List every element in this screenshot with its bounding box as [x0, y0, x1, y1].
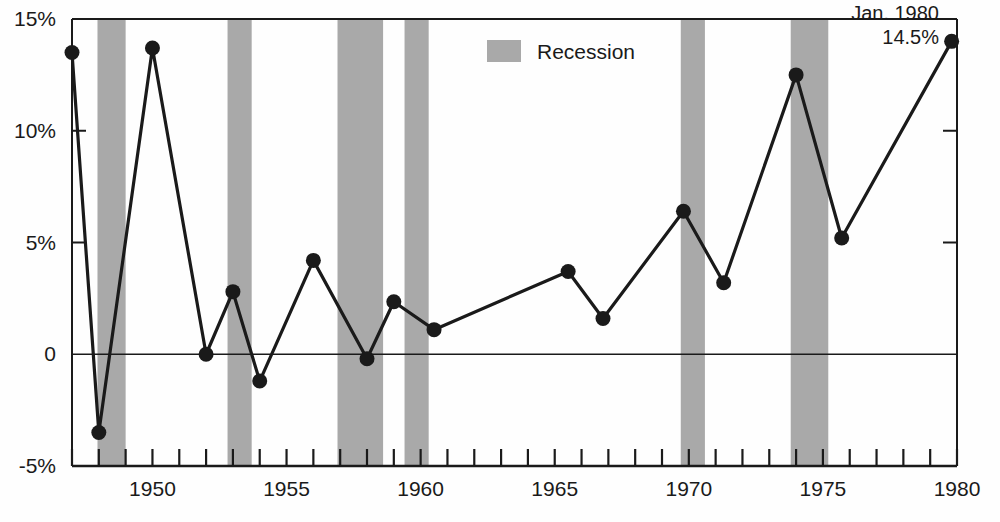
data-point-marker[interactable]	[386, 294, 401, 309]
data-point-marker[interactable]	[789, 67, 804, 82]
recession-bands-group	[97, 19, 828, 466]
data-point-marker[interactable]	[145, 41, 160, 56]
annotation-line-1: Jan. 1980	[851, 2, 939, 24]
recession-band	[791, 19, 829, 466]
data-point-marker[interactable]	[360, 351, 375, 366]
y-tick-label: 5%	[26, 231, 56, 254]
recession-band	[228, 19, 252, 466]
data-point-marker[interactable]	[306, 253, 321, 268]
chart-canvas: 15%10%5%0-5%1950195519601965197019751980…	[0, 0, 1000, 522]
y-tick-label: 0	[44, 342, 56, 365]
x-tick-label: 1970	[665, 477, 712, 500]
data-point-marker[interactable]	[596, 311, 611, 326]
data-point-marker[interactable]	[561, 264, 576, 279]
inflation-recession-chart: 15%10%5%0-5%1950195519601965197019751980…	[0, 0, 1000, 522]
data-point-marker[interactable]	[91, 425, 106, 440]
x-tick-label: 1975	[800, 477, 847, 500]
recession-band	[97, 19, 125, 466]
data-point-marker[interactable]	[199, 347, 214, 362]
x-axis-ticks-group: 1950195519601965197019751980	[72, 449, 980, 500]
x-tick-label: 1980	[934, 477, 981, 500]
data-point-marker[interactable]	[225, 284, 240, 299]
data-point-marker[interactable]	[944, 34, 959, 49]
recession-band	[338, 19, 384, 466]
x-tick-label: 1960	[397, 477, 444, 500]
data-point-marker[interactable]	[427, 322, 442, 337]
legend-swatch-recession	[487, 40, 521, 62]
data-point-marker[interactable]	[252, 374, 267, 389]
data-point-marker[interactable]	[716, 275, 731, 290]
data-point-marker[interactable]	[65, 45, 80, 60]
data-point-marker[interactable]	[676, 204, 691, 219]
y-tick-label: 10%	[14, 119, 56, 142]
x-tick-label: 1965	[531, 477, 578, 500]
legend-label-recession: Recession	[537, 40, 635, 63]
recession-band	[405, 19, 429, 466]
annotation-group: Jan. 198014.5%	[851, 2, 939, 48]
annotation-line-2: 14.5%	[882, 26, 939, 48]
x-tick-label: 1955	[263, 477, 310, 500]
y-tick-label: 15%	[14, 7, 56, 30]
y-tick-label: -5%	[19, 454, 56, 477]
legend-group: Recession	[487, 40, 635, 63]
x-tick-label: 1950	[129, 477, 176, 500]
data-point-marker[interactable]	[834, 231, 849, 246]
